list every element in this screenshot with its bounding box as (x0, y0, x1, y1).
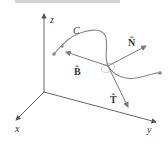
t-vector-label: T̂ (110, 93, 117, 105)
b-vector-label: B̂ (74, 65, 81, 77)
b-vector (66, 52, 108, 66)
frenet-frame-diagram: z x y C B̂ N̂ T̂ (0, 0, 168, 146)
curve-start-point (52, 52, 56, 56)
y-axis (44, 92, 156, 122)
curve-c (54, 30, 160, 78)
y-axis-label: y (146, 124, 152, 135)
x-axis-label: x (14, 123, 20, 134)
curve-label: C (73, 25, 80, 36)
axes (16, 14, 156, 122)
x-axis (16, 92, 44, 120)
z-axis-label: z (49, 14, 54, 25)
n-vector-label: N̂ (128, 36, 136, 48)
n-vector (108, 46, 146, 66)
curve-end-point (158, 71, 162, 75)
